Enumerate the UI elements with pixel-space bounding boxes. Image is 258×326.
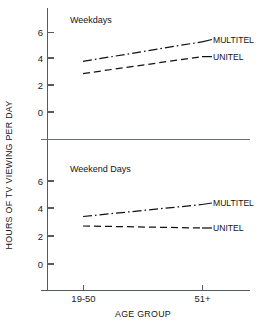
weekdays-multitel-line (83, 42, 202, 62)
weekend-multitel-leader (202, 203, 212, 205)
weekend-multitel-line (83, 205, 202, 217)
weekdays-unitel-label: UNITEL (213, 52, 244, 62)
x-axis-title: AGE GROUP (115, 309, 171, 319)
weekdays-multitel-label: MULTITEL (213, 35, 254, 45)
panel-weekend-days: 6 4 2 0 Weekend Days MULTITEL UNITEL 19-… (38, 140, 254, 319)
weekend-tick-label-2: 2 (38, 231, 43, 242)
weekend-unitel-line (83, 226, 202, 228)
weekdays-multitel-leader (202, 40, 212, 42)
weekend-tick-label-4: 4 (38, 203, 43, 214)
x-tick-label-51-plus: 51+ (194, 293, 211, 304)
weekdays-tick-label-2: 2 (38, 80, 43, 91)
weekdays-tick-label-6: 6 (38, 27, 43, 38)
weekend-unitel-label: UNITEL (213, 223, 244, 233)
panel-weekdays: 6 4 2 0 Weekdays MULTITEL UNITEL (38, 8, 254, 139)
x-tick-label-19-50: 19-50 (71, 293, 95, 304)
weekend-tick-label-6: 6 (38, 176, 43, 187)
chart-canvas: HOURS OF TV VIEWING PER DAY 6 4 2 0 Week… (0, 0, 258, 326)
weekend-multitel-label: MULTITEL (213, 198, 254, 208)
y-axis-title: HOURS OF TV VIEWING PER DAY (4, 100, 14, 249)
weekdays-tick-label-4: 4 (38, 53, 43, 64)
weekdays-tick-label-0: 0 (38, 107, 43, 118)
weekdays-unitel-line (83, 57, 202, 74)
weekend-tick-label-0: 0 (38, 259, 43, 270)
tv-viewing-chart: HOURS OF TV VIEWING PER DAY 6 4 2 0 Week… (0, 0, 258, 326)
weekend-panel-label: Weekend Days (70, 164, 131, 174)
weekdays-panel-label: Weekdays (70, 15, 112, 25)
